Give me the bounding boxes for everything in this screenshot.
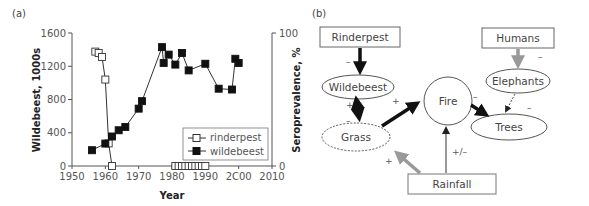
node-humans: Humans (482, 28, 554, 48)
x-tick-label: 1990 (193, 171, 218, 182)
wildebeest-rinderpest-chart: 040080012001600 0100 1950196019701980199… (0, 0, 310, 206)
sign-elephants-trees: – (527, 103, 532, 113)
y2-tick-label: 0 (279, 161, 285, 172)
sign-grass-fire: + (392, 96, 400, 106)
sign-humans-elephants: – (538, 52, 543, 62)
x-tick-label: 1960 (93, 171, 118, 182)
node-fire: Fire (424, 77, 472, 125)
y-axis-title: Wildebeest, 1000s (31, 48, 42, 152)
wildebeest-marker (122, 123, 129, 130)
legend: rinderpest wildebeest (183, 128, 268, 160)
node-fire-label: Fire (439, 95, 458, 107)
wildebeest-marker (115, 127, 122, 134)
arrow-elephants-trees (506, 94, 515, 111)
sign-fire-trees: – (473, 92, 478, 102)
x-axis-title: Year (159, 190, 185, 201)
sign-rainfall-grass: + (385, 156, 393, 166)
wildebeest-marker (179, 49, 186, 56)
node-elephants: Elephants (486, 69, 550, 93)
wildebeest-marker (235, 59, 242, 66)
rinderpest-marker (202, 163, 209, 170)
y-tick-label: 1600 (41, 28, 66, 39)
node-wildebeest: Wildebeest (322, 75, 394, 99)
node-rainfall-label: Rainfall (432, 178, 471, 190)
node-wildebeest-label: Wildebeest (329, 81, 387, 93)
legend-wildebeest: wildebeest (210, 146, 264, 157)
wildebeest-marker (135, 105, 142, 112)
sign-wildebeest-grass-bottom: – (346, 116, 351, 126)
x-tick-label: 1950 (59, 171, 84, 182)
node-elephants-label: Elephants (492, 75, 544, 87)
wildebeest-marker (89, 147, 96, 154)
x-tick-label: 2010 (259, 171, 284, 182)
x-tick-label: 2C00 (226, 171, 252, 182)
wildebeest-marker (202, 60, 209, 67)
legend-filled-square-icon (193, 148, 200, 155)
wildebeest-marker (185, 67, 192, 74)
wildebeest-marker (172, 61, 179, 68)
wildebeest-marker (102, 140, 109, 147)
y2-tick-label: 100 (279, 28, 298, 39)
node-rinderpest: Rinderpest (320, 27, 400, 47)
arrow-grass-fire (382, 104, 416, 126)
node-rainfall: Rainfall (408, 174, 496, 194)
node-trees: Trees (471, 114, 547, 140)
y-tick-label: 800 (47, 94, 66, 105)
sign-rinderpest-wildebeest: – (346, 57, 351, 67)
arrow-rainfall-grass (398, 154, 420, 173)
x-tick-label: 1970 (126, 171, 151, 182)
wildebeest-marker (215, 85, 222, 92)
node-grass: Grass (322, 123, 390, 151)
node-humans-label: Humans (496, 32, 539, 44)
sign-wildebeest-grass-top: + (346, 100, 354, 110)
wildebeest-marker (160, 59, 167, 66)
wildebeest-marker (229, 86, 236, 93)
wildebeest-marker (159, 44, 166, 51)
rinderpest-marker (99, 53, 106, 60)
sign-rainfall-fire: +/– (452, 147, 468, 157)
wildebeest-marker (165, 51, 172, 58)
node-grass-label: Grass (341, 131, 371, 143)
rinderpest-marker (102, 76, 109, 83)
ecosystem-diagram: Rinderpest Humans Wildebeest Elephants F… (310, 0, 589, 206)
y-tick-label: 1200 (41, 61, 66, 72)
legend-rinderpest: rinderpest (210, 132, 262, 143)
y-axis-ticks: 040080012001600 (41, 28, 72, 172)
rinderpest-line (95, 52, 112, 166)
wildebeest-marker (139, 98, 146, 105)
legend-open-square-icon (193, 135, 200, 142)
wildebeest-marker (109, 133, 116, 140)
arrow-fire-trees (471, 105, 485, 114)
arrow-wildebeest-grass (357, 104, 359, 117)
x-tick-label: 1980 (159, 171, 184, 182)
y2-axis-title: Seroprevalence, % (291, 47, 302, 152)
node-rinderpest-label: Rinderpest (331, 31, 388, 43)
y-tick-label: 0 (60, 161, 66, 172)
node-trees-label: Trees (494, 121, 522, 133)
y-tick-label: 400 (47, 127, 66, 138)
rinderpest-marker (109, 163, 116, 170)
